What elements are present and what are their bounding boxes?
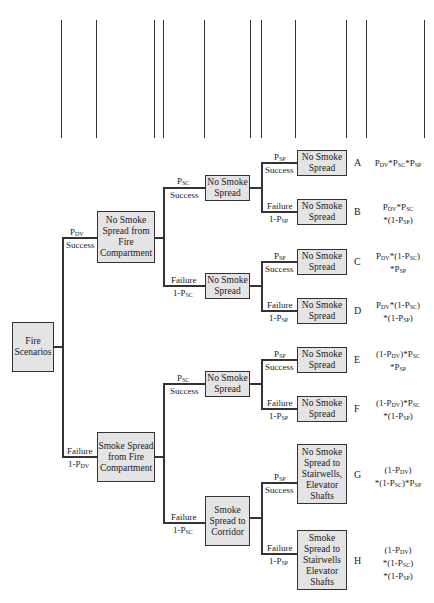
header-divider: [204, 20, 205, 138]
consequence-smoke-spread-corridor: Smoke Spread to Corridor: [205, 496, 250, 546]
header-divider: [250, 20, 251, 138]
header-divider: [366, 20, 367, 138]
connector: [261, 211, 297, 213]
scenario-label: H: [354, 555, 361, 566]
connector: [163, 383, 165, 523]
consequence-no-smoke-spread: No Smoke Spread: [205, 371, 250, 397]
branch-success: Success: [170, 190, 199, 200]
branch-p-sc: PSC: [177, 373, 189, 385]
scenario-label: A: [354, 157, 361, 168]
connector: [163, 522, 205, 524]
header-divider: [261, 20, 262, 138]
scenario-label: C: [354, 256, 361, 267]
branch-success: Success: [265, 485, 294, 495]
header-divider: [163, 20, 164, 138]
scenario-probability-g: (1-PDV)*(1-PSC)*PSP: [362, 465, 434, 491]
branch-p-sp: PSP: [274, 152, 286, 164]
scenario-probability-e: (1-PDV)*PSC*PSP: [362, 349, 434, 375]
scenario-probability-d: PDV*(1-PSC)*(1-PSP): [362, 300, 434, 326]
branch-p-sc: PSC: [177, 176, 189, 188]
scenario-probability-b: PDV*PSC*(1-PSP): [362, 202, 434, 228]
consequence-no-smoke-spread-stairwells: No Smoke Spread to Stairwells, Elevator …: [297, 444, 347, 504]
connector: [261, 553, 297, 555]
consequence-smoke-spread-stairwells: Smoke Spread to Stairwells Elevator Shaf…: [297, 530, 347, 590]
branch-failure: Failure: [267, 300, 293, 310]
connector: [261, 162, 263, 212]
connector: [261, 482, 263, 554]
connector: [163, 187, 165, 286]
branch-success: Success: [170, 386, 199, 396]
branch-failure: Failure: [67, 446, 93, 456]
branch-success: Success: [66, 240, 95, 250]
branch-failure: Failure: [171, 275, 197, 285]
branch-1-p-sp: 1-PSP: [269, 556, 288, 568]
connector: [62, 237, 64, 457]
consequence-no-smoke-spread: No Smoke Spread: [297, 396, 347, 422]
consequence-no-smoke-spread: No Smoke Spread: [297, 150, 347, 176]
branch-failure: Failure: [267, 201, 293, 211]
scenario-label: D: [354, 305, 361, 316]
header-divider: [96, 20, 97, 138]
connector: [163, 285, 205, 287]
consequence-no-smoke-spread: No Smoke Spread: [297, 199, 347, 225]
header-divider: [295, 20, 296, 138]
scenario-label: F: [354, 403, 360, 414]
scenario-probability-a: PDV*PSC*PSP: [362, 158, 434, 171]
consequence-no-smoke-spread: No Smoke Spread: [205, 273, 250, 299]
branch-p-sp: PSP: [274, 472, 286, 484]
branch-1-p-sc: 1-PSC: [173, 288, 193, 300]
connector: [54, 346, 62, 348]
connector: [261, 359, 263, 409]
connector: [155, 456, 163, 458]
header-divider: [346, 20, 347, 138]
branch-p-sp: PSP: [274, 251, 286, 263]
connector: [261, 408, 297, 410]
consequence-no-smoke-spread: No Smoke Spread: [205, 175, 250, 201]
branch-1-p-sp: 1-PSP: [269, 411, 288, 423]
branch-failure: Failure: [267, 543, 293, 553]
connector: [250, 285, 261, 287]
consequence-no-smoke-spread: No Smoke Spread: [297, 249, 347, 275]
branch-success: Success: [265, 362, 294, 372]
branch-1-p-dv: 1-PDV: [68, 459, 89, 471]
connector: [62, 456, 97, 458]
header-divider: [424, 20, 425, 138]
scenario-label: E: [354, 354, 360, 365]
header-divider: [154, 20, 155, 138]
connector: [250, 383, 261, 385]
root-fire-scenarios: FireScenarios: [12, 322, 54, 372]
branch-1-p-sp: 1-PSP: [269, 214, 288, 226]
connector: [250, 187, 261, 189]
branch-success: Success: [265, 264, 294, 274]
consequence-no-smoke-spread: No Smoke Spread: [297, 298, 347, 324]
connector: [261, 310, 297, 312]
scenario-probability-h: (1-PDV)*(1-PSC)*(1-PSP): [362, 545, 434, 584]
scenario-probability-f: (1-PDV)*PSC*(1-PSP): [362, 398, 434, 424]
branch-success: Success: [265, 165, 294, 175]
branch-failure: Failure: [171, 512, 197, 522]
scenario-label: B: [354, 206, 361, 217]
branch-1-p-sp: 1-PSP: [269, 313, 288, 325]
consequence-no-smoke-spread-fire-compartment: No Smoke Spread from Fire Compartment: [97, 211, 155, 263]
branch-p-sp: PSP: [274, 349, 286, 361]
header-divider: [61, 20, 62, 138]
branch-p-dv: PDV: [70, 227, 84, 239]
branch-failure: Failure: [267, 398, 293, 408]
connector: [250, 517, 261, 519]
branch-1-p-sc: 1-PSC: [173, 525, 193, 537]
connector: [261, 261, 263, 311]
scenario-label: G: [354, 469, 361, 480]
consequence-smoke-spread-fire-compartment: Smoke Spread from Fire Compartment: [97, 432, 155, 482]
consequence-no-smoke-spread: No Smoke Spread: [297, 347, 347, 373]
scenario-probability-c: PDV*(1-PSC)*PSP: [362, 251, 434, 277]
connector: [155, 237, 163, 239]
